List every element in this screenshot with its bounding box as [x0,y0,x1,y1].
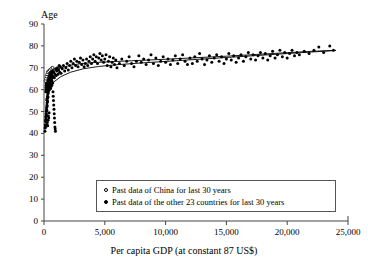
data-point-filled [332,49,335,52]
data-point-filled [97,56,100,59]
y-tick-label: 50 [29,107,39,117]
chart-figure: 010203040506070809005,00010,00015,00020,… [0,0,368,269]
y-tick-label: 80 [29,41,39,51]
data-point-filled [63,70,66,73]
data-point-filled [235,61,238,64]
y-tick-label: 90 [29,19,39,29]
data-point-filled [85,58,88,61]
data-point-filled [52,95,55,98]
data-point-filled [108,55,111,58]
data-point-filled [128,55,131,58]
data-point-filled [112,56,115,59]
data-point-filled [84,62,87,65]
y-tick-label: 30 [29,150,39,160]
data-point-filled [123,64,126,67]
data-point-filled [73,58,76,61]
legend-label-china: Past data of China for last 30 years [112,184,231,196]
data-point-filled [225,58,228,61]
chart-legend: Past data of China for last 30 years Pas… [96,180,336,212]
data-point-filled [215,53,218,56]
data-point-filled [171,59,174,62]
data-point-filled [87,60,90,63]
y-tick-label: 10 [29,194,39,204]
data-point-filled [293,54,296,57]
data-point-filled [298,53,301,56]
data-point-filled [102,61,105,64]
data-point-filled [66,62,69,65]
data-point-filled [227,52,230,55]
data-point-filled [61,67,64,70]
data-point-filled [78,61,81,64]
data-point-filled [96,62,99,65]
data-point-filled [54,130,57,133]
data-point-filled [98,52,101,55]
data-point-filled [159,60,162,63]
data-point-filled [252,53,255,56]
data-point-filled [184,60,187,63]
x-tick-label: 10,000 [153,227,178,237]
legend-item-other-countries: Past data of the other 23 countries for … [102,196,330,208]
data-point-open [51,66,54,69]
data-point-filled [60,72,63,75]
data-point-filled [53,121,56,124]
data-point-filled [100,59,103,62]
open-circle-marker-icon [104,188,108,192]
data-point-filled [254,59,257,62]
data-point-filled [135,60,138,63]
data-point-filled [291,49,294,52]
data-point-filled [188,56,191,59]
data-point-filled [196,60,199,63]
data-point-filled [130,62,133,65]
data-point-filled [288,52,291,55]
data-point-filled [94,60,97,63]
data-point-filled [198,52,201,55]
data-point-filled [278,49,281,52]
data-point-filled [176,62,179,65]
data-point-filled [52,108,55,111]
y-tick-label: 40 [29,128,39,138]
data-point-filled [308,52,311,55]
data-point-filled [72,62,75,65]
data-point-filled [53,117,56,120]
data-point-filled [52,90,55,93]
data-point-filled [186,63,189,66]
data-point-filled [111,61,114,64]
data-point-filled [62,64,65,67]
data-point-filled [46,105,49,108]
data-point-filled [201,58,204,61]
filled-circle-marker-icon [104,200,108,204]
y-tick-label: 60 [29,85,39,95]
data-point-filled [164,61,167,64]
data-point-filled [167,58,170,61]
data-point-filled [286,56,289,59]
data-point-filled [247,51,250,54]
y-tick-label: 70 [29,63,39,73]
data-point-filled [132,65,135,68]
data-point-filled [208,54,211,57]
data-point-filled [53,112,56,115]
data-point-filled [181,53,184,56]
data-point-filled [257,54,260,57]
data-point-filled [230,59,233,62]
scatter-plot-canvas: 010203040506070809005,00010,00015,00020,… [0,0,368,269]
data-point-filled [89,55,92,58]
data-point-filled [137,54,140,57]
data-point-filled [271,50,274,53]
data-point-filled [239,53,242,56]
data-point-filled [218,60,221,63]
data-point-filled [205,59,208,62]
data-point-filled [52,103,55,106]
data-point-filled [79,56,82,59]
data-point-filled [222,62,225,65]
data-point-filled [244,55,247,58]
data-point-filled [203,63,206,66]
data-point-filled [114,59,117,62]
data-point-filled [150,53,153,56]
data-point-filled [52,99,55,102]
data-point-filled [191,62,194,65]
data-point-filled [109,65,112,68]
data-point-filled [281,55,284,58]
data-point-filled [259,51,262,54]
data-point-filled [68,64,71,67]
data-point-filled [232,54,235,57]
